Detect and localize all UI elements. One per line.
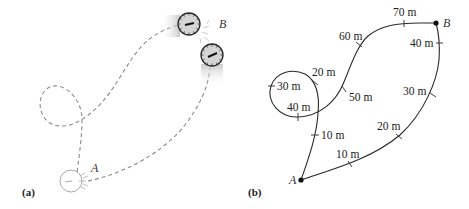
marker-label: 50 m (349, 91, 372, 103)
marker-label: 20 m (312, 66, 335, 78)
marker-label: 10 m (321, 129, 344, 141)
panel-b-label: (b) (248, 186, 262, 199)
path2-ticks (348, 43, 443, 167)
point-b-label: B (443, 16, 451, 30)
point-a-label: A (90, 161, 99, 175)
dashed-path-loop (40, 25, 178, 172)
panel-b: 10 m 20 m 30 m 40 m 50 m 60 m 70 m 10 m … (248, 6, 451, 199)
panel-a-label: (a) (22, 186, 35, 199)
clock-2-icon (201, 44, 223, 66)
dashed-path-arc (88, 68, 210, 181)
panel-a: A B (22, 13, 227, 199)
marker-label: 40 m (410, 37, 433, 49)
marker-label: 20 m (377, 120, 400, 132)
motion-blur (160, 15, 180, 37)
clock-at-a-icon (60, 170, 82, 192)
marker-label: 60 m (339, 30, 362, 42)
diagram-canvas: A B (0, 0, 469, 209)
motion-blur (201, 64, 223, 86)
marker-label: 70 m (393, 6, 416, 18)
starburst-a-icon (79, 173, 88, 189)
point-b-label: B (219, 17, 227, 31)
starburst-b-icon (200, 20, 209, 43)
path1-ticks (268, 20, 404, 135)
marker-label: 30 m (277, 80, 300, 92)
marker-label: 30 m (403, 85, 426, 97)
marker-label: 10 m (336, 148, 359, 160)
marker-label: 40 m (287, 101, 310, 113)
point-b-dot (433, 20, 438, 25)
point-a-label: A (288, 173, 297, 187)
clock-1-icon (178, 13, 200, 35)
point-a-dot (298, 177, 303, 182)
